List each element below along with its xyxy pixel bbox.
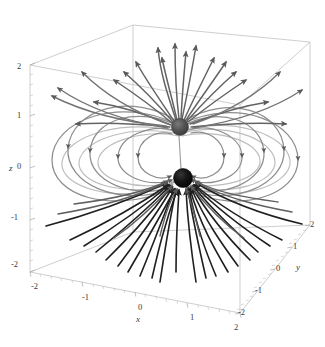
z-tick-label: 1: [17, 110, 21, 120]
dipole-axis-segment: [179, 136, 181, 169]
x-axis-label: x: [136, 314, 140, 324]
vector-field-plot: 2 1 0 -1 -2 -2 -1 0 1 2 2 1 0 -1 -2 z x …: [0, 0, 325, 347]
y-axis-label: y: [296, 262, 300, 272]
y-tick-label: 0: [276, 263, 280, 273]
x-tick-label: 2: [234, 322, 238, 332]
y-tick-label: 1: [293, 241, 297, 251]
y-tick-label: 2: [310, 219, 314, 229]
x-tick-label: 0: [138, 302, 142, 312]
plot-canvas: [0, 0, 325, 347]
upper-charge-sphere: [172, 119, 189, 136]
z-tick-label: -1: [11, 212, 18, 222]
bounding-box: [30, 25, 310, 313]
z-axis-label: z: [9, 163, 13, 173]
lower-charge-sphere: [174, 169, 193, 188]
z-tick-label: 0: [17, 161, 21, 171]
x-tick-label: 1: [190, 312, 194, 322]
field-arrows-lower: [46, 183, 302, 282]
y-tick-label: -1: [255, 285, 262, 295]
y-tick-label: -2: [238, 307, 245, 317]
field-arrows-upper: [76, 44, 286, 127]
z-tick-label: 2: [17, 61, 21, 71]
x-tick-label: -1: [82, 292, 89, 302]
x-tick-label: -2: [31, 281, 38, 291]
z-tick-label: -2: [11, 259, 18, 269]
